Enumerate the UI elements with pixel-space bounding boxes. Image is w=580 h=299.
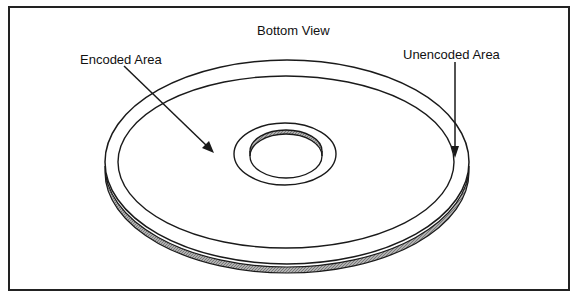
diagram-title: Bottom View xyxy=(257,23,330,38)
unencoded-area-label: Unencoded Area xyxy=(403,47,500,62)
encoded-area-label: Encoded Area xyxy=(80,52,162,67)
center-hole xyxy=(250,130,322,178)
disc-illustration xyxy=(0,0,580,299)
